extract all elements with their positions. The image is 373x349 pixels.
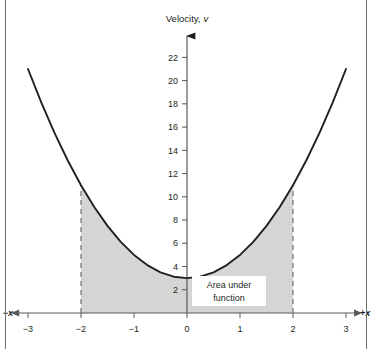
- y-tick-label: 12: [168, 169, 178, 179]
- frame-left-rule: [5, 0, 6, 349]
- x-tick-label: 0: [184, 324, 189, 334]
- x-tick-label: −1: [129, 324, 139, 334]
- x-tick-label: 3: [343, 324, 348, 334]
- x-tick-label: 2: [290, 324, 295, 334]
- y-tick-label: 2: [173, 285, 178, 295]
- chart-title-text: Velocity,: [166, 13, 201, 24]
- chart-title-symbol: v: [203, 13, 209, 24]
- y-tick-label: 14: [168, 146, 178, 156]
- frame-right-rule: [366, 0, 367, 349]
- x-axis-ticks: −3−2−10123: [23, 313, 349, 334]
- chart-title: Velocity,v: [166, 13, 210, 24]
- y-tick-label: 8: [173, 215, 178, 225]
- y-tick-label: 16: [168, 122, 178, 132]
- area-under-function-annotation: Area under function: [192, 276, 266, 306]
- y-tick-label: 18: [168, 99, 178, 109]
- y-tick-label: 22: [168, 53, 178, 63]
- y-tick-label: 4: [173, 262, 178, 272]
- annotation-line-1: Area under: [207, 280, 252, 290]
- x-tick-label: −3: [23, 324, 33, 334]
- figure-container: −3−2−10123 246810121416182022 Velocity,v…: [0, 0, 373, 349]
- y-tick-label: 6: [173, 238, 178, 248]
- y-axis-ticks: 246810121416182022: [168, 53, 187, 295]
- annotation-line-2: function: [213, 293, 245, 303]
- x-tick-label: −2: [76, 324, 86, 334]
- velocity-parabola-chart: −3−2−10123 246810121416182022 Velocity,v…: [0, 0, 373, 349]
- x-tick-label: 1: [237, 324, 242, 334]
- y-tick-label: 10: [168, 192, 178, 202]
- y-tick-label: 20: [168, 76, 178, 86]
